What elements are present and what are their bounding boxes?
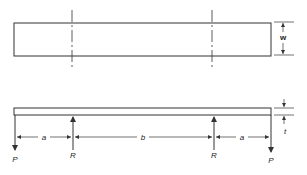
span-a-left-label: a (42, 133, 47, 142)
right-reaction-arrow: R (211, 117, 217, 160)
left-reaction-label: R (70, 151, 76, 160)
left-load-label: P (12, 155, 18, 164)
span-dimensions: a b a (17, 133, 269, 142)
elevation-view: t P R R P a b (12, 99, 294, 165)
left-reaction-arrow: R (70, 117, 76, 160)
plan-view: w (14, 10, 294, 68)
right-reaction-label: R (211, 151, 217, 160)
span-b-label: b (141, 133, 146, 142)
thickness-label: t (284, 127, 287, 136)
width-label: w (279, 33, 287, 42)
beam-diagram: w t P R R P (0, 0, 307, 175)
right-load-arrow: P (268, 115, 274, 165)
left-load-arrow: P (12, 115, 18, 164)
width-dimension: w (274, 22, 294, 55)
thickness-dimension: t (274, 99, 294, 136)
right-load-label: P (268, 156, 274, 165)
plan-rectangle (14, 23, 271, 56)
beam-elevation (14, 108, 271, 115)
span-a-right-label: a (240, 133, 245, 142)
